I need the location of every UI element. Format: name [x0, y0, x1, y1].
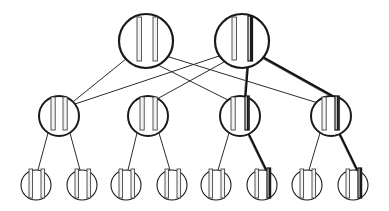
root-node-1[interactable]	[119, 14, 173, 68]
leaf-node-6-circle[interactable]	[247, 170, 277, 200]
root-node-1-circle[interactable]	[119, 14, 173, 68]
leaf-node-2-bar-2[interactable]	[87, 169, 91, 198]
tree-diagram-svg	[0, 0, 389, 211]
middle-node-3[interactable]	[220, 96, 260, 136]
leaf-node-6-bar-1[interactable]	[255, 169, 259, 198]
middle-node-3-bar-2-highlight-fill	[247, 96, 249, 130]
middle-node-4[interactable]	[311, 96, 351, 136]
middle-node-2[interactable]	[128, 96, 168, 136]
leaf-node-5-bar-2[interactable]	[221, 169, 225, 198]
root-node-2-bar-2-highlight-fill	[250, 16, 252, 61]
middle-node-4-bar-2-highlight-fill	[337, 96, 339, 130]
middle-node-4-circle[interactable]	[311, 96, 351, 136]
leaf-node-7-bar-1[interactable]	[300, 169, 304, 198]
middle-node-1-circle[interactable]	[39, 96, 79, 136]
root-node-1-bar-1[interactable]	[137, 17, 142, 61]
leaf-node-1[interactable]	[21, 169, 51, 200]
leaf-node-7[interactable]	[292, 169, 322, 200]
leaf-node-3-circle[interactable]	[111, 170, 141, 200]
leaf-node-5-bar-1[interactable]	[209, 169, 213, 198]
leaf-node-7-circle[interactable]	[292, 170, 322, 200]
middle-node-1-bar-2[interactable]	[63, 97, 67, 130]
leaf-node-2-bar-1[interactable]	[75, 169, 79, 198]
leaf-node-1-bar-2[interactable]	[41, 169, 45, 198]
middle-node-2-circle[interactable]	[128, 96, 168, 136]
leaf-node-4-bar-1[interactable]	[165, 169, 169, 198]
root-node-1-bar-2[interactable]	[153, 17, 158, 61]
root-node-2-bar-1[interactable]	[232, 17, 237, 60]
leaf-node-5[interactable]	[201, 169, 231, 200]
middle-node-2-bar-1[interactable]	[140, 97, 144, 130]
leaf-node-4-circle[interactable]	[157, 170, 187, 200]
middle-node-1-bar-1[interactable]	[51, 97, 55, 130]
leaf-node-8-bar-1[interactable]	[346, 169, 350, 198]
leaf-node-4-bar-2[interactable]	[177, 169, 181, 198]
leaf-node-3[interactable]	[111, 169, 141, 200]
middle-node-3-circle[interactable]	[220, 96, 260, 136]
middle-node-1[interactable]	[39, 96, 79, 136]
leaf-node-4[interactable]	[157, 169, 187, 200]
leaf-node-5-circle[interactable]	[201, 170, 231, 200]
leaf-node-1-circle[interactable]	[21, 170, 51, 200]
leaf-node-8-circle[interactable]	[338, 170, 368, 200]
middle-node-3-bar-1[interactable]	[231, 97, 235, 130]
leaf-node-2[interactable]	[67, 169, 97, 200]
leaf-node-1-bar-1[interactable]	[29, 169, 33, 198]
leaf-node-6-bar-2-highlight-fill	[269, 168, 271, 198]
leaf-node-3-bar-2[interactable]	[131, 169, 135, 198]
middle-node-2-bar-2[interactable]	[153, 97, 157, 130]
leaf-node-7-bar-2[interactable]	[312, 169, 316, 198]
root-node-2[interactable]	[215, 14, 269, 68]
leaf-node-2-circle[interactable]	[67, 170, 97, 200]
root-node-2-circle[interactable]	[215, 14, 269, 68]
middle-node-4-bar-1[interactable]	[322, 97, 326, 130]
tree-diagram-canvas	[0, 0, 389, 211]
leaf-node-8-bar-2-highlight-fill	[360, 168, 362, 198]
leaf-node-3-bar-1[interactable]	[119, 169, 123, 198]
